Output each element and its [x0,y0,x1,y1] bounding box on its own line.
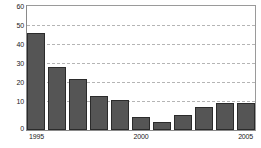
y-axis-tick-label: 10 [2,98,24,105]
y-axis: 60 50 40 30 20 10 0 [0,0,24,148]
y-axis-tick-label: 50 [2,22,24,29]
y-axis-tick-label: 30 [2,60,24,67]
bar [48,67,66,130]
bar [216,103,234,130]
bar [69,79,87,130]
x-axis-tick-label: 2000 [134,133,149,141]
bar [111,100,129,130]
bar [195,107,213,130]
bar [132,117,150,130]
x-axis-tick-label: 2005 [238,133,253,141]
bar [174,115,192,130]
y-axis-tick-label: 20 [2,79,24,86]
bar [27,33,45,130]
y-axis-tick-label: 0 [2,125,24,132]
bar [90,96,108,130]
bar [153,122,171,130]
bar-series [26,5,256,131]
y-axis-tick-label: 60 [2,3,24,10]
bar-chart: 60 50 40 30 20 10 0 199520002005 [0,0,261,148]
bar [237,103,255,130]
y-axis-tick-label: 40 [2,41,24,48]
x-axis-tick-label: 1995 [29,133,44,141]
